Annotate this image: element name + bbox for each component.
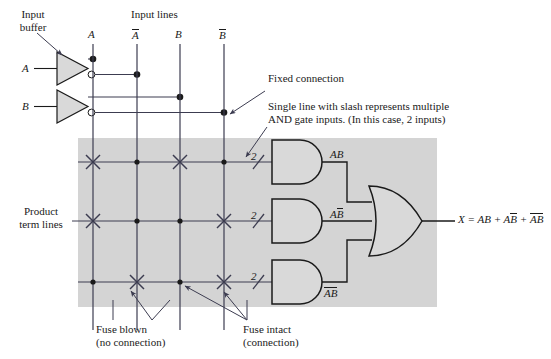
input-buffer-a <box>34 52 95 85</box>
leader-fixed-connection <box>230 91 265 114</box>
buffer-input-label-a: A <box>22 62 29 75</box>
buffer-input-label-b: B <box>22 100 29 113</box>
and-gate-2 <box>272 199 322 243</box>
input-buffer-label: Input buffer <box>4 8 62 34</box>
multi-input-note: Single line with slash represents multip… <box>268 100 449 126</box>
buffer-feed-lines <box>88 59 224 113</box>
column-label-a: A <box>88 28 95 41</box>
product-label-1: AB <box>330 148 343 161</box>
and-input-count-3: 2 <box>251 270 257 283</box>
diagram-canvas <box>0 0 551 359</box>
pld-fuse-matrix-diagram: Input buffer Input lines A A B B A B Fix… <box>0 0 551 359</box>
and-gate-1 <box>272 140 322 184</box>
product-label-2: AB <box>330 207 343 221</box>
and-input-count-2: 2 <box>251 209 257 222</box>
output-equation: X = AB + AB + AB <box>458 212 543 226</box>
leader-input-buffer <box>37 33 62 55</box>
fuse-intact-r1-bn <box>221 159 226 164</box>
input-lines-label: Input lines <box>131 8 178 21</box>
and-gate-3 <box>272 260 322 304</box>
fixed-connection-dots <box>90 56 228 116</box>
product-label-3: AB <box>324 286 337 300</box>
and-input-count-1: 2 <box>251 150 257 163</box>
and-gates <box>272 140 322 304</box>
fuse-intact-r2-an <box>134 218 139 223</box>
column-label-b-bar: B <box>219 28 226 42</box>
fuse-blown-caption: Fuse blown (no connection) <box>96 323 165 349</box>
fuse-intact-r1-an <box>134 159 139 164</box>
fuse-intact-r3-a <box>90 279 95 284</box>
fuse-intact-r3-b <box>177 279 182 284</box>
column-label-a-bar: A <box>132 28 139 42</box>
fuse-intact-caption: Fuse intact (connection) <box>243 323 299 349</box>
fuse-intact-r2-b <box>177 218 182 223</box>
input-buffer-b <box>34 90 95 123</box>
column-label-b: B <box>175 28 182 41</box>
product-term-lines-label: Product term lines <box>10 205 72 231</box>
fixed-connection-label: Fixed connection <box>268 72 344 85</box>
